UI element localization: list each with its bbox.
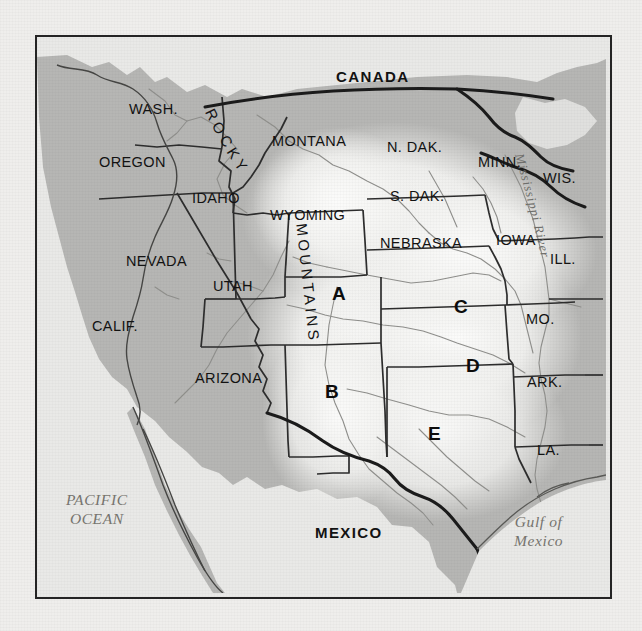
state-label-nebraska: NEBRASKA — [380, 235, 462, 251]
state-label-nevada: NEVADA — [126, 253, 187, 269]
state-label-wash: WASH. — [129, 101, 178, 117]
state-label-la: LA. — [537, 442, 560, 458]
region-marker-c: C — [454, 296, 468, 318]
state-label-s-dak: S. DAK. — [390, 188, 444, 204]
svg-text:MOUNTAINS: MOUNTAINS — [293, 222, 323, 344]
mountain-range-label: ROCKY MOUNTAINS — [192, 62, 372, 462]
region-marker-e: E — [428, 423, 441, 445]
gulf-label-line-2: Mexico — [514, 531, 563, 550]
ocean-label-line-2: OCEAN — [66, 509, 128, 528]
gulf-label-mexico: Gulf of Mexico — [514, 512, 563, 550]
map-frame: CANADA MEXICO WASH. OREGON IDAHO MONTANA… — [35, 35, 612, 599]
river-label-mississippi: Mississippi River — [505, 147, 612, 407]
ocean-label-pacific: PACIFIC OCEAN — [66, 490, 128, 528]
river-label-text: Mississippi River — [512, 151, 553, 260]
country-label-mexico: MEXICO — [315, 524, 383, 541]
svg-text:Mississippi River: Mississippi River — [512, 151, 553, 260]
page-background: CANADA MEXICO WASH. OREGON IDAHO MONTANA… — [0, 0, 642, 631]
range-word-rocky: ROCKY — [202, 106, 253, 177]
state-label-calif: CALIF. — [92, 318, 138, 334]
range-word-mountains: MOUNTAINS — [293, 222, 323, 344]
state-label-n-dak: N. DAK. — [387, 139, 442, 155]
state-label-oregon: OREGON — [99, 154, 166, 170]
svg-text:ROCKY: ROCKY — [202, 106, 253, 177]
gulf-label-line-1: Gulf of — [514, 512, 563, 531]
ocean-label-line-1: PACIFIC — [66, 490, 128, 509]
region-marker-d: D — [466, 355, 480, 377]
